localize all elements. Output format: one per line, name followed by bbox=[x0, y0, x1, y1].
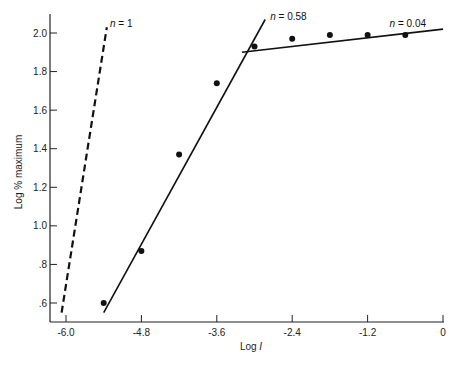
data-point bbox=[101, 300, 107, 306]
data-point bbox=[176, 152, 182, 158]
line-annotation: n = 1 bbox=[110, 18, 133, 29]
y-tick-label: 1.8 bbox=[33, 66, 47, 77]
y-tick-label: 2.0 bbox=[33, 28, 47, 39]
data-point bbox=[252, 44, 258, 50]
x-tick-label: 0 bbox=[440, 327, 446, 338]
line-annotation: n = 0.04 bbox=[390, 18, 427, 29]
y-tick-label: .6 bbox=[39, 298, 48, 309]
data-points bbox=[101, 32, 409, 306]
x-tick-label: -1.2 bbox=[359, 327, 377, 338]
data-point bbox=[402, 32, 408, 38]
data-point bbox=[214, 80, 220, 86]
y-tick-label: 1.2 bbox=[33, 182, 47, 193]
fit-line bbox=[242, 29, 443, 52]
annotations: n = 1n = 0.58n = 0.04 bbox=[110, 11, 426, 30]
axes: -6.0-4.8-3.6-2.4-1.20.6.81.01.21.41.61.8… bbox=[33, 14, 446, 338]
x-tick-label: -3.6 bbox=[208, 327, 226, 338]
data-point bbox=[138, 248, 144, 254]
y-tick-label: 1.6 bbox=[33, 105, 47, 116]
fit-line bbox=[62, 27, 107, 312]
chart: -6.0-4.8-3.6-2.4-1.20.6.81.01.21.41.61.8… bbox=[0, 0, 460, 365]
y-axis-title: Log % maximum bbox=[13, 135, 24, 209]
data-point bbox=[289, 36, 295, 42]
x-tick-label: -6.0 bbox=[57, 327, 75, 338]
data-point bbox=[365, 32, 371, 38]
fit-lines bbox=[62, 20, 443, 313]
x-tick-label: -2.4 bbox=[284, 327, 302, 338]
line-annotation: n = 0.58 bbox=[270, 11, 307, 22]
y-tick-label: 1.4 bbox=[33, 143, 47, 154]
y-tick-label: 1.0 bbox=[33, 220, 47, 231]
x-tick-label: -4.8 bbox=[133, 327, 151, 338]
y-tick-label: .8 bbox=[39, 259, 48, 270]
fit-line bbox=[104, 20, 265, 313]
data-point bbox=[327, 32, 333, 38]
x-axis-title: Log I bbox=[240, 341, 262, 352]
